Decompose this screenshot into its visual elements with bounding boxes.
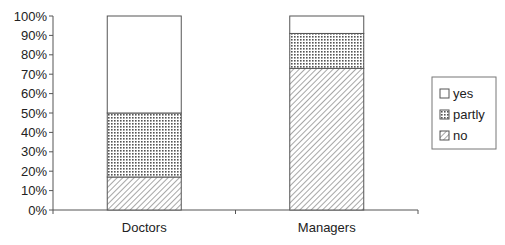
legend-swatch-no-icon — [440, 131, 449, 140]
stacked-percent-bar-chart: 0%10%20%30%40%50%60%70%80%90%100% Doctor… — [0, 0, 505, 245]
bar-segment-no — [107, 177, 181, 210]
legend-label: partly — [453, 107, 485, 122]
y-tick-label: 50% — [21, 106, 47, 121]
bar-segment-yes — [107, 16, 181, 113]
legend-swatch-partly-icon — [440, 110, 449, 119]
y-tick-label: 100% — [14, 9, 48, 24]
y-tick-label: 30% — [21, 144, 47, 159]
bar-segment-yes — [290, 16, 364, 33]
bar-segment-partly — [107, 113, 181, 177]
y-tick-label: 80% — [21, 47, 47, 62]
x-category-label: Managers — [298, 220, 356, 235]
y-tick-label: 60% — [21, 86, 47, 101]
y-tick-label: 70% — [21, 67, 47, 82]
bars — [107, 16, 364, 210]
bar-segment-partly — [290, 33, 364, 68]
y-tick-label: 40% — [21, 125, 47, 140]
legend: yespartlyno — [432, 77, 496, 149]
x-category-label: Doctors — [122, 220, 167, 235]
x-axis: DoctorsManagers — [53, 210, 418, 235]
legend-swatch-yes-icon — [440, 89, 449, 98]
bar-doctors — [107, 16, 181, 210]
legend-label: yes — [453, 86, 474, 101]
y-tick-label: 90% — [21, 28, 47, 43]
bar-segment-no — [290, 68, 364, 210]
y-tick-label: 10% — [21, 183, 47, 198]
bar-managers — [290, 16, 364, 210]
y-axis: 0%10%20%30%40%50%60%70%80%90%100% — [14, 9, 53, 218]
y-tick-label: 0% — [28, 203, 47, 218]
y-tick-label: 20% — [21, 164, 47, 179]
legend-label: no — [453, 128, 467, 143]
